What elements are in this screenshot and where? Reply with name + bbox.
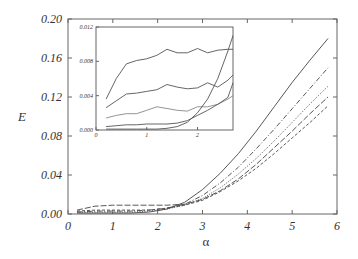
inset-x-tick-label: 1 bbox=[145, 132, 148, 138]
x-tick-label: 0 bbox=[65, 219, 71, 233]
inset-y-tick-label: 0.000 bbox=[80, 127, 94, 133]
inset-x-tick-label: 2 bbox=[196, 132, 199, 138]
y-tick-label: 0.12 bbox=[41, 90, 62, 104]
inset-x-tick-label: 0 bbox=[95, 132, 98, 138]
y-tick-label: 0.08 bbox=[41, 129, 62, 143]
inset-y-tick-label: 0.012 bbox=[80, 24, 94, 30]
y-tick-label: 0.04 bbox=[41, 168, 62, 182]
x-axis-title: α bbox=[203, 234, 210, 249]
inset-y-tick-label: 0.004 bbox=[80, 93, 94, 99]
y-tick-label: 0.20 bbox=[41, 12, 62, 26]
x-tick-label: 6 bbox=[334, 219, 340, 233]
chart: 01234560.000.040.080.120.160.20 0120.000… bbox=[0, 0, 358, 259]
y-tick-label: 0.16 bbox=[41, 51, 62, 65]
x-tick-label: 4 bbox=[244, 219, 250, 233]
inset-y-tick-label: 0.008 bbox=[80, 58, 94, 64]
x-tick-label: 1 bbox=[110, 219, 116, 233]
y-axis-title: E bbox=[17, 109, 26, 124]
x-tick-label: 5 bbox=[289, 219, 295, 233]
x-tick-label: 3 bbox=[199, 219, 206, 233]
y-tick-label: 0.00 bbox=[41, 207, 62, 221]
x-tick-label: 2 bbox=[155, 219, 161, 233]
inset-chart: 0120.0000.0040.0080.012 bbox=[80, 24, 234, 138]
